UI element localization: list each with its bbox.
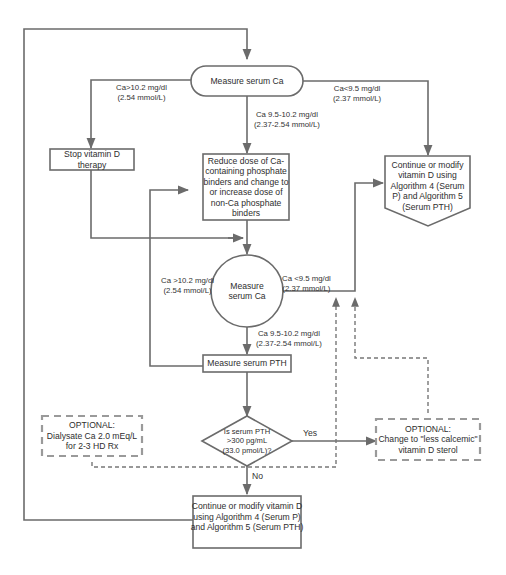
- stop-vitd-text: Stop vitamin D therapy: [50, 149, 134, 170]
- dashed-edge-less-calcemic: [355, 298, 428, 413]
- measure-ca-top-label: Measure serum Ca: [191, 66, 303, 96]
- reduce-binders-label: Reduce dose of Ca- containing phosphate …: [203, 154, 289, 220]
- measure-pth-label: Measure serum PTH: [203, 355, 291, 372]
- edge-label-circle-high: Ca >10.2 mg/dl (2.54 mmol/L): [161, 276, 214, 296]
- optional-dialysate-label: OPTIONAL: Dialysate Ca 2.0 mEq/L for 2-3…: [42, 416, 142, 456]
- edge-label-yes: Yes: [303, 428, 317, 438]
- continue-modify-bottom-label: Continue or modify vitamin D using Algor…: [193, 496, 301, 538]
- edge-label-top-mid: Ca 9.5-10.2 mg/dl (2.37-2.54 mmol/L): [254, 110, 320, 130]
- pth-decision-label: Is serum PTH >300 pg/mL (33.0 pmol/L)?: [212, 424, 282, 458]
- edge-label-circle-low: Ca <9.5 mg/dl (2.37 mmol/L): [282, 274, 331, 294]
- continue-modify-bottom-text: Continue or modify vitamin D using Algor…: [191, 501, 304, 533]
- optional-dialysate-text: OPTIONAL: Dialysate Ca 2.0 mEq/L for 2-3…: [47, 420, 137, 452]
- edge-label-circle-mid: Ca 9.5-10.2 mg/dl (2.37-2.54 mmol/L): [256, 329, 322, 349]
- continue-modify-right-text: Continue or modify vitamin D using Algor…: [390, 160, 464, 213]
- pth-decision-text: Is serum PTH >300 pg/mL (33.0 pmol/L)?: [223, 427, 272, 456]
- edge-label-top-high: Ca>10.2 mg/dl (2.54 mmol/L): [116, 83, 167, 103]
- stop-vitd-label: Stop vitamin D therapy: [50, 149, 134, 170]
- optional-less-calcemic-label: OPTIONAL: Change to "less calcemic" vita…: [376, 419, 480, 460]
- edge-label-top-low: Ca<9.5 mg/dl (2.37 mmol/L): [333, 84, 381, 104]
- measure-pth-text: Measure serum PTH: [207, 358, 286, 369]
- continue-modify-right-label: Continue or modify vitamin D using Algor…: [385, 158, 470, 214]
- optional-less-calcemic-text: OPTIONAL: Change to "less calcemic" vita…: [378, 424, 477, 456]
- reduce-binders-text: Reduce dose of Ca- containing phosphate …: [203, 156, 288, 219]
- measure-ca-circle-label: Measure serum Ca: [211, 271, 283, 311]
- measure-ca-circle-text: Measure serum Ca: [228, 281, 265, 302]
- edge-label-no: No: [252, 471, 263, 481]
- measure-ca-top-text: Measure serum Ca: [210, 76, 283, 87]
